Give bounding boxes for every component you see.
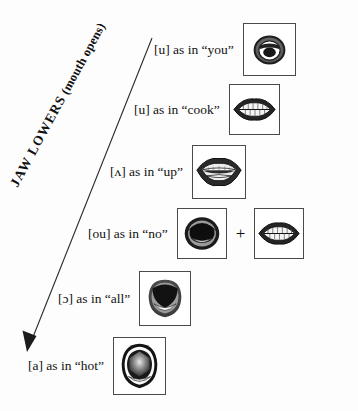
vowel-label: [a] as in “hot” [28,359,104,373]
mouth-teeth-closed-secondary-icon [254,208,304,259]
mouth-opens-label: (mouth opens) [58,20,108,96]
mouth-rounded-small-icon [243,23,296,76]
vowel-label: [ou] as in “no” [88,227,168,241]
vowel-label: [u] as in “you” [154,43,234,57]
vowel-label: [ɔ] as in “all” [58,292,130,306]
mouth-open-dark-icon [177,208,227,259]
mouth-teeth-closed-icon [229,84,280,135]
vowel-label: [ʌ] as in “up” [110,165,183,179]
vowel-label: [u] as in “cook” [134,103,220,117]
mouth-widest-open-icon [113,337,166,395]
vowel-row: [u] as in “you” [154,23,296,76]
vowel-row: [a] as in “hot” [28,337,166,395]
vowel-row: [ou] as in “no” + [88,208,304,259]
vowel-row: [ʌ] as in “up” [110,145,246,199]
jaw-lowers-text: JAW LOWERS [7,93,69,190]
plus-icon: + [236,225,246,242]
mouth-wide-oval-icon [139,271,191,326]
mouth-teeth-open-icon [192,145,246,199]
vowel-jaw-diagram: JAW LOWERS (mouth opens) [u] as in “you” [0,0,358,411]
vowel-row: [u] as in “cook” [134,84,280,135]
vowel-row: [ɔ] as in “all” [58,271,191,326]
